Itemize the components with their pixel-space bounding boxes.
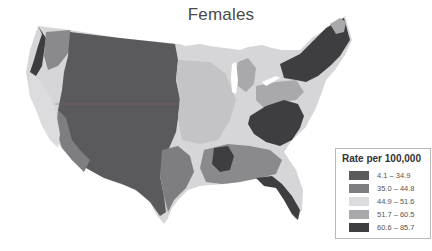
legend-row: 44.9 – 51.6 bbox=[349, 196, 415, 206]
legend-label: 35.0 – 44.8 bbox=[377, 184, 415, 193]
legend-row: 60.6 – 85.7 bbox=[349, 222, 415, 232]
legend-title: Rate per 100,000 bbox=[342, 153, 421, 164]
legend-label: 4.1 – 34.9 bbox=[377, 171, 410, 180]
legend-row: 51.7 – 60.5 bbox=[349, 209, 415, 219]
legend-swatch bbox=[349, 184, 369, 193]
legend-label: 44.9 – 51.6 bbox=[377, 197, 415, 206]
legend-swatch bbox=[349, 197, 369, 206]
region-plains bbox=[58, 32, 180, 216]
legend-row: 4.1 – 34.9 bbox=[349, 170, 410, 180]
legend-label: 60.6 – 85.7 bbox=[377, 223, 415, 232]
legend-label: 51.7 – 60.5 bbox=[377, 210, 415, 219]
legend-swatch bbox=[349, 223, 369, 232]
legend-swatch bbox=[349, 210, 369, 219]
legend-swatch bbox=[349, 171, 369, 180]
map-legend: Rate per 100,000 4.1 – 34.9 35.0 – 44.8 … bbox=[335, 148, 431, 239]
legend-row: 35.0 – 44.8 bbox=[349, 183, 415, 193]
